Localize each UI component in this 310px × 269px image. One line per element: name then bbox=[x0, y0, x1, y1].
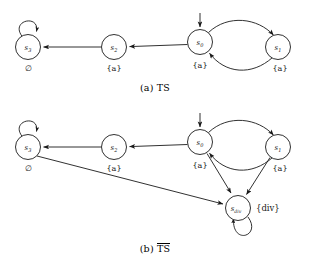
edge-s0-to-s1 bbox=[209, 20, 274, 35]
ap-label-s0-b: {a} bbox=[193, 161, 208, 170]
node-sub-s1-a: 1 bbox=[278, 47, 281, 53]
caption-a: (a) TS bbox=[0, 82, 310, 93]
ap-label-s3-b: ∅ bbox=[25, 164, 32, 173]
node-sub-s3-b: 3 bbox=[28, 147, 31, 153]
edge-s0-to-s2-b bbox=[130, 145, 188, 147]
node-sub-s2-a: 2 bbox=[113, 47, 117, 53]
ap-label-s1-b: {a} bbox=[273, 164, 288, 173]
diagram-a-edges bbox=[19, 13, 273, 70]
ap-label-s2-a: {a} bbox=[107, 64, 122, 73]
ap-label-s1-a: {a} bbox=[273, 64, 288, 73]
node-sub-s2-b: 2 bbox=[113, 147, 117, 153]
diagram-a-node-labels: s3 s2 s0 s1 ∅ {a} {a} {a} bbox=[25, 39, 288, 73]
diagram-a-nodes bbox=[16, 30, 291, 60]
edge-s3-s3-selfloop bbox=[19, 21, 37, 36]
ap-label-s2-b: {a} bbox=[107, 164, 122, 173]
edge-s0-to-sdiv bbox=[207, 154, 231, 194]
node-sub-s3-a: 3 bbox=[28, 47, 31, 53]
node-sub-s1-b: 1 bbox=[278, 147, 281, 153]
edge-s1-to-s0 bbox=[210, 53, 273, 70]
edge-s3-s3-selfloop-b bbox=[19, 121, 37, 136]
ap-label-s0-a: {a} bbox=[193, 61, 208, 70]
diagram-b-nodes bbox=[16, 130, 291, 221]
edge-s0-to-s2 bbox=[130, 45, 188, 47]
edge-s0-to-s1-b bbox=[209, 120, 274, 135]
caption-b: (b) TS bbox=[0, 243, 310, 254]
figure-svg: s3 s2 s0 s1 ∅ {a} {a} {a} s3 s2 s0 s1 sd… bbox=[0, 0, 310, 269]
ap-label-s3-a: ∅ bbox=[25, 64, 32, 73]
node-sub-sdiv-b: div bbox=[234, 209, 241, 214]
edge-s1-to-sdiv bbox=[247, 158, 271, 195]
ap-label-sdiv-b: {div} bbox=[256, 203, 280, 213]
caption-b-prefix: (b) bbox=[140, 243, 157, 254]
figure-transition-systems: s3 s2 s0 s1 ∅ {a} {a} {a} s3 s2 s0 s1 sd… bbox=[0, 0, 310, 269]
caption-b-overlined-name: TS bbox=[157, 243, 170, 254]
